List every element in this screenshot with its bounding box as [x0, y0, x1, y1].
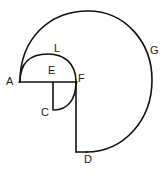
point-label-C: C: [41, 107, 49, 118]
arc-FC: [54, 82, 76, 110]
point-label-A: A: [6, 76, 13, 87]
geometry-drawing: [0, 0, 165, 175]
point-label-D: D: [84, 154, 92, 165]
point-label-L: L: [54, 43, 60, 54]
geometry-figure: A L G E F C D: [0, 0, 165, 175]
point-label-E: E: [48, 65, 55, 76]
point-label-F: F: [78, 73, 85, 84]
point-label-G: G: [150, 45, 159, 56]
